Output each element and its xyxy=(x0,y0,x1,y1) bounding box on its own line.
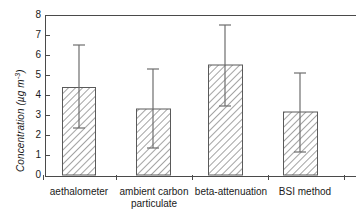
bar-chart: Concentration (µg m-3) 8 7 6 5 4 3 2 1 0 xyxy=(0,0,359,222)
bar-group-aethalometer xyxy=(63,45,96,175)
x-category-label-ambient-carbon-particulate: ambient carbon particulate xyxy=(110,186,198,210)
x-category-label-bsi-method: BSI method xyxy=(266,186,344,198)
x-category-label-beta-attenuation: beta-attenuation xyxy=(187,186,275,198)
bar-group-beta-attenuation xyxy=(209,25,243,175)
bar-group-bsi-method xyxy=(284,73,318,175)
bar-group-ambient-carbon-particulate xyxy=(137,69,171,175)
